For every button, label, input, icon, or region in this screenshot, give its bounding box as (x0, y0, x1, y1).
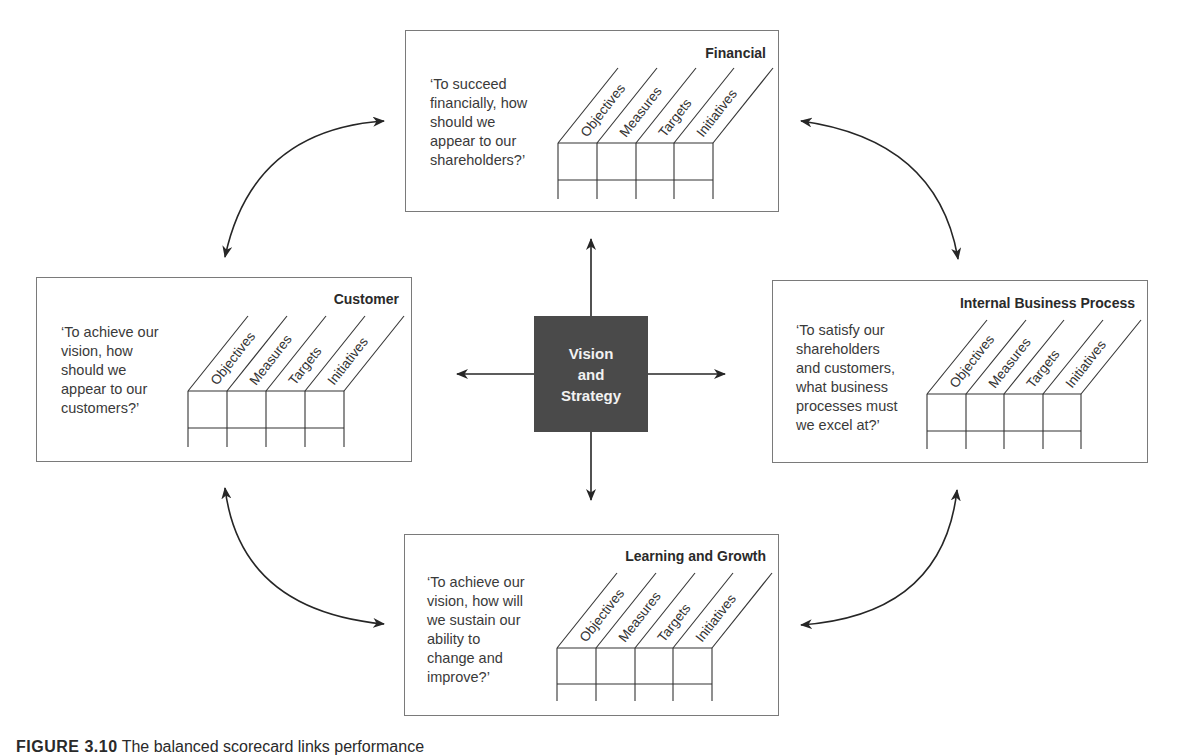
figure-caption-label: FIGURE 3.10 (16, 738, 118, 755)
arrow-internal-learning (801, 490, 957, 625)
figure-caption-text: The balanced scorecard links performance (122, 738, 424, 755)
panel-question-learning: ‘To achieve our vision, how will we sust… (427, 573, 525, 687)
panel-learning-growth: Learning and Growth ‘To achieve our visi… (404, 534, 779, 716)
figure-caption: FIGURE 3.10 The balanced scorecard links… (16, 738, 424, 756)
vision-strategy-label: Vision and Strategy (561, 343, 621, 406)
panel-customer: Customer ‘To achieve our vision, how sho… (36, 277, 412, 462)
arrow-financial-internal (801, 121, 958, 259)
panel-financial: Financial ‘To succeed financially, how s… (405, 30, 779, 212)
panel-question-internal: ‘To satisfy our shareholders and custome… (796, 321, 898, 435)
panel-internal-business-process: Internal Business Process ‘To satisfy ou… (772, 280, 1148, 463)
panel-title-customer: Customer (334, 291, 399, 307)
panel-question-financial: ‘To succeed financially, how should we a… (430, 75, 527, 170)
panel-question-customer: ‘To achieve our vision, how should we ap… (61, 323, 159, 418)
arrow-customer-learning (225, 488, 384, 624)
panel-title-financial: Financial (705, 45, 766, 61)
panel-title-learning: Learning and Growth (625, 548, 766, 564)
panel-title-internal: Internal Business Process (960, 295, 1135, 311)
vision-strategy-box: Vision and Strategy (534, 316, 648, 432)
arrow-financial-customer (225, 121, 384, 257)
